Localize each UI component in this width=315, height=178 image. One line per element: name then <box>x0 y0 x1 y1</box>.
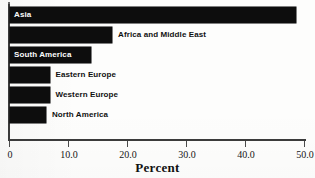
bar-label: Eastern Europe <box>56 68 117 82</box>
bar[interactable] <box>10 27 112 43</box>
bar-row[interactable]: Western Europe <box>0 85 315 105</box>
bar-label: North America <box>52 108 108 122</box>
x-tick-mark <box>304 141 305 147</box>
bar-row[interactable]: Eastern Europe <box>0 65 315 85</box>
x-tick-label: 40.0 <box>237 149 255 160</box>
bar-row[interactable]: Africa and Middle East <box>0 25 315 45</box>
x-tick-mark <box>68 141 69 147</box>
bar-label: Asia <box>14 8 31 22</box>
x-axis-line <box>8 139 306 141</box>
x-tick-mark <box>245 141 246 147</box>
x-tick-mark <box>9 141 10 147</box>
bar-chart: AsiaAfrica and Middle EastSouth AmericaE… <box>0 0 315 178</box>
x-tick-mark <box>186 141 187 147</box>
bar[interactable] <box>10 87 50 103</box>
x-tick-label: 10.0 <box>60 149 78 160</box>
bar[interactable] <box>10 107 46 123</box>
bar-row[interactable]: Asia <box>0 5 315 25</box>
x-axis-title: Percent <box>0 160 315 176</box>
x-tick-label: 50.0 <box>296 149 314 160</box>
bar-row[interactable]: North America <box>0 105 315 125</box>
x-tick-label: 20.0 <box>119 149 137 160</box>
x-tick-mark <box>127 141 128 147</box>
x-tick-label: 0 <box>8 149 13 160</box>
bar-label: Western Europe <box>56 88 119 102</box>
bar-row[interactable]: South America <box>0 45 315 65</box>
bar[interactable] <box>10 67 50 83</box>
bar-label: Africa and Middle East <box>118 28 206 42</box>
bar-label: South America <box>14 48 71 62</box>
bar[interactable] <box>10 7 296 23</box>
x-tick-label: 30.0 <box>178 149 196 160</box>
